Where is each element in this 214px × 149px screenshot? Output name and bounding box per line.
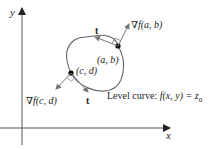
- point-label-ab: (a, b): [97, 54, 119, 66]
- x-axis-label: x: [165, 129, 171, 141]
- level-curve-diagram: y x t ∇f(a, b) (a, b) (c, d) t ∇f(c, d) …: [0, 0, 214, 149]
- level-curve-label-expr: f(x, y) = z: [160, 90, 199, 102]
- gradient-label-ab: ∇f(a, b): [131, 19, 163, 31]
- gradient-arrow-ab: [118, 24, 129, 46]
- level-curve-label-sub: 0: [199, 96, 203, 104]
- point-label-cd: (c, d): [76, 65, 98, 77]
- level-curve-label: Level curve: f(x, y) = z0: [107, 90, 203, 104]
- tangent-label-ab: t: [95, 25, 99, 36]
- level-curve-label-prefix: Level curve:: [107, 90, 160, 101]
- y-axis-label: y: [9, 6, 15, 18]
- tangent-label-cd: t: [86, 95, 90, 106]
- gradient-arrow-cd: [56, 73, 71, 89]
- gradient-label-cd: ∇f(c, d): [26, 95, 58, 107]
